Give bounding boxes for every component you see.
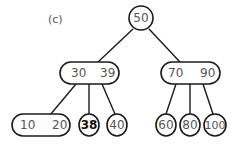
leaf-node-80: 80 <box>180 114 200 136</box>
node-key: 40 <box>109 118 124 132</box>
node-key: 70 <box>168 66 183 80</box>
edge-right-leaf1 <box>166 84 176 114</box>
caption: (c) <box>48 13 63 26</box>
node-key: 39 <box>100 66 115 80</box>
internal-node-left: 30 39 <box>60 62 119 84</box>
edge-right-leaf3 <box>203 84 213 114</box>
edge-left-leaf1 <box>50 84 76 115</box>
leaf-node-38: 38 <box>79 114 99 136</box>
node-key: 60 <box>158 118 173 132</box>
leaf-node-40: 40 <box>107 114 127 136</box>
internal-node-right: 70 90 <box>161 62 220 84</box>
leaf-node-60: 60 <box>156 114 176 136</box>
leaf-node-100: 100 <box>204 114 226 136</box>
node-key: 30 <box>71 66 86 80</box>
edge-root-right <box>149 29 180 62</box>
root-node: 50 <box>129 6 153 30</box>
node-key: 100 <box>205 119 226 132</box>
btree-diagram: (c) 50 30 39 70 90 10 20 38 40 60 80 100 <box>0 0 242 145</box>
edge-left-leaf3 <box>102 84 115 114</box>
node-key: 20 <box>52 118 67 132</box>
node-key: 10 <box>20 118 35 132</box>
node-key: 90 <box>200 66 215 80</box>
node-key: 80 <box>182 118 197 132</box>
node-key: 50 <box>133 11 148 25</box>
node-key: 38 <box>81 118 98 132</box>
leaf-node-10-20: 10 20 <box>12 114 70 136</box>
edge-root-left <box>98 29 133 62</box>
